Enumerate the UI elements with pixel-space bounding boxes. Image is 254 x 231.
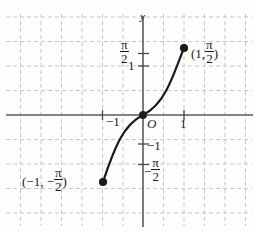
fraction-numerator: π [205, 38, 214, 51]
x-tick-label-one: 1 [180, 117, 187, 130]
point-x-value: −1, − [26, 175, 54, 188]
close-paren: ) [214, 46, 218, 61]
point-label-right-endpoint: (1, π 2 ) [191, 38, 218, 66]
point-x-value: 1, [195, 47, 205, 60]
fraction-pi-over-2: π 2 [54, 166, 63, 194]
fraction-numerator: π [54, 166, 63, 179]
point-right-endpoint [180, 44, 188, 52]
fraction-numerator: π [151, 156, 160, 169]
x-tick-label-neg-one: −1 [106, 115, 120, 128]
fraction-pi-over-2: π 2 [205, 38, 214, 66]
y-tick-label-neg-pi-over-2: − π 2 [144, 156, 160, 184]
y-tick-label-one: 1 [128, 59, 135, 72]
point-label-left-endpoint: (−1, − π 2 ) [22, 166, 67, 194]
y-axis-label: y [140, 11, 145, 22]
close-paren: ) [63, 174, 67, 189]
graph-figure: y π 2 1 O 1 −1 −1 − π 2 (1, π 2 ) (−1, −… [0, 0, 254, 231]
origin-label: O [147, 117, 156, 130]
y-tick-label-neg-one: −1 [147, 139, 161, 152]
fraction-numerator: π [120, 38, 129, 51]
point-left-endpoint [99, 178, 107, 186]
fraction-denominator: 2 [151, 169, 160, 183]
fraction-denominator: 2 [205, 51, 214, 65]
fraction-pi-over-2: π 2 [151, 156, 160, 184]
graph-canvas [0, 0, 254, 231]
minus-sign: − [144, 165, 151, 178]
point-origin [139, 111, 147, 119]
fraction-denominator: 2 [54, 179, 63, 193]
